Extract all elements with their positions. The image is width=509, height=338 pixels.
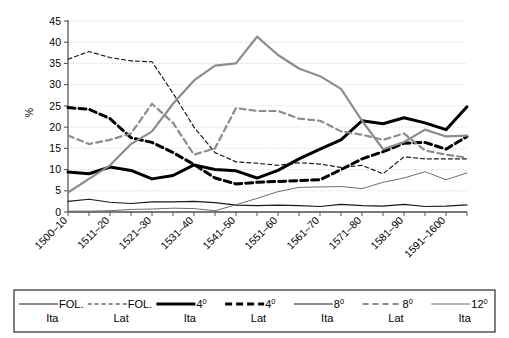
y-axis-tick-label: 20 — [49, 121, 61, 133]
y-axis-tick-label: 15 — [49, 142, 61, 154]
legend-label-sub-5: Lat — [388, 312, 403, 324]
legend-label-sub-1: Lat — [113, 312, 128, 324]
legend-label-sub-2: Ita — [184, 312, 197, 324]
legend-label-sub-4: Ita — [321, 312, 334, 324]
y-axis-tick-label: 30 — [49, 78, 61, 90]
y-axis-title: % — [23, 108, 35, 117]
canvas-background — [0, 0, 509, 338]
legend-superscript-3: 0 — [271, 297, 275, 306]
legend-superscript-5: 0 — [409, 297, 413, 306]
legend-label-main-0: FOL. — [59, 298, 83, 310]
legend-label-main-1: FOL. — [128, 298, 152, 310]
y-axis-tick-label: 5 — [55, 184, 61, 196]
y-axis-title-text: % — [23, 108, 35, 117]
legend-superscript-6: 0 — [484, 297, 488, 306]
y-axis-tick-label: 25 — [49, 100, 61, 112]
y-axis-tick-label: 45 — [49, 15, 61, 27]
legend-box — [14, 290, 495, 332]
line-chart: 051015202530354045 1500–101511–201521–30… — [0, 0, 509, 338]
y-axis-tick-label: 35 — [49, 57, 61, 69]
legend-label-sub-6: Ita — [459, 312, 472, 324]
chart-container: 051015202530354045 1500–101511–201521–30… — [0, 0, 509, 338]
y-axis-tick-label: 40 — [49, 36, 61, 48]
legend-superscript-2: 0 — [203, 297, 207, 306]
legend-label-sub-3: Lat — [251, 312, 266, 324]
y-axis-tick-label: 10 — [49, 163, 61, 175]
chart-legend: FOL.ItaFOL.Lat40Ita40Lat80Ita80Lat120Ita — [14, 290, 495, 332]
legend-superscript-4: 0 — [340, 297, 344, 306]
legend-label-sub-0: Ita — [46, 312, 59, 324]
